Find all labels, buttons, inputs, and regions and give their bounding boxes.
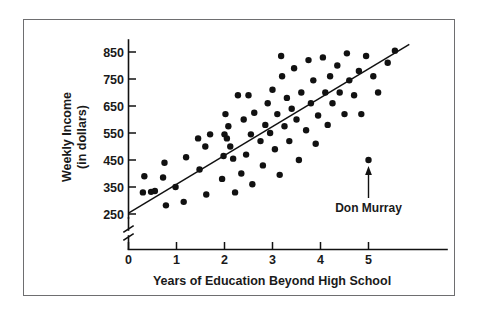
x-tick-label-0: 0: [125, 253, 132, 267]
data-point: [251, 110, 257, 116]
data-point: [305, 57, 311, 63]
data-point: [161, 160, 167, 166]
data-point: [241, 116, 247, 122]
data-point: [298, 89, 304, 95]
data-point: [320, 54, 326, 60]
data-point: [291, 65, 297, 71]
x-tick-label-1: 1: [173, 253, 180, 267]
data-point: [219, 176, 225, 182]
data-point: [315, 112, 321, 118]
regression-trend-line: [129, 44, 410, 213]
data-point: [267, 130, 273, 136]
don-murray-annotation: Don Murray: [335, 166, 402, 215]
data-point: [375, 89, 381, 95]
data-point: [310, 77, 316, 83]
data-point: [232, 189, 238, 195]
data-point: [322, 89, 328, 95]
data-point: [278, 53, 284, 59]
x-tick-label-3: 3: [269, 253, 276, 267]
data-point: [196, 166, 202, 172]
data-point: [334, 62, 340, 68]
data-point: [207, 131, 213, 137]
data-point: [262, 122, 268, 128]
data-point: [163, 202, 169, 208]
data-point: [257, 138, 263, 144]
data-point: [293, 116, 299, 122]
data-point: [327, 73, 333, 79]
data-point: [356, 68, 362, 74]
data-point: [160, 174, 166, 180]
y-tick-label-550: 550: [103, 127, 124, 141]
x-axis-tick-labels: 0 1 2 3 4 5: [125, 253, 372, 267]
data-point: [341, 111, 347, 117]
annotation-label-don-murray: Don Murray: [335, 201, 402, 215]
annotation-arrowhead-icon: [365, 166, 372, 175]
y-tick-label-850: 850: [103, 46, 124, 60]
data-point: [303, 127, 309, 133]
data-point: [325, 122, 331, 128]
data-point: [183, 154, 189, 160]
data-point: [224, 135, 230, 141]
y-tick-label-450: 450: [103, 154, 124, 168]
data-point: [227, 143, 233, 149]
data-point: [230, 155, 236, 161]
data-point: [346, 77, 352, 83]
y-tick-label-750: 750: [103, 73, 124, 87]
y-axis-title-line2: (in dollars): [75, 105, 89, 169]
data-point: [281, 123, 287, 129]
y-tick-label-350: 350: [103, 181, 124, 195]
scatter-chart: 850 750 650 550 450 350 250 0 1 2 3 4 5: [0, 0, 479, 315]
x-tick-label-5: 5: [365, 253, 372, 267]
data-point: [202, 143, 208, 149]
y-tick-label-250: 250: [103, 208, 124, 222]
x-axis-title: Years of Education Beyond High School: [153, 274, 391, 288]
figure-root: 850 750 650 550 450 350 250 0 1 2 3 4 5: [0, 0, 479, 315]
data-point: [141, 173, 147, 179]
data-point: [248, 131, 254, 137]
data-point: [238, 170, 244, 176]
data-point: [308, 100, 314, 106]
data-point: [365, 157, 371, 163]
data-point: [337, 89, 343, 95]
data-point: [272, 146, 278, 152]
data-point: [274, 111, 280, 117]
data-point: [279, 73, 285, 79]
data-point: [235, 92, 241, 98]
data-point: [181, 199, 187, 205]
data-point: [277, 172, 283, 178]
data-point: [392, 47, 398, 53]
data-point: [351, 92, 357, 98]
data-point: [363, 53, 369, 59]
data-point: [222, 111, 228, 117]
y-axis-title-line1: Weekly Income: [60, 92, 74, 182]
data-point: [289, 106, 295, 112]
data-point: [203, 191, 209, 197]
data-point: [140, 189, 146, 195]
data-point: [385, 60, 391, 66]
y-axis-ticks: [129, 52, 137, 214]
y-axis-tick-labels: 850 750 650 550 450 350 250: [103, 46, 124, 222]
x-tick-label-2: 2: [221, 253, 228, 267]
data-point: [344, 50, 350, 56]
data-point: [284, 95, 290, 101]
data-point: [370, 73, 376, 79]
data-point: [172, 184, 178, 190]
y-tick-label-650: 650: [103, 100, 124, 114]
data-point: [286, 138, 292, 144]
data-point: [265, 100, 271, 106]
data-point: [220, 153, 226, 159]
data-point: [245, 92, 251, 98]
x-tick-label-4: 4: [317, 253, 324, 267]
data-point: [313, 141, 319, 147]
data-point: [195, 135, 201, 141]
data-point: [329, 100, 335, 106]
data-point: [225, 123, 231, 129]
x-axis-ticks: [129, 242, 369, 250]
data-point: [269, 87, 275, 93]
data-point: [358, 111, 364, 117]
data-point: [296, 157, 302, 163]
data-point: [243, 151, 249, 157]
data-point: [260, 162, 266, 168]
data-point: [152, 188, 158, 194]
data-point: [249, 181, 255, 187]
